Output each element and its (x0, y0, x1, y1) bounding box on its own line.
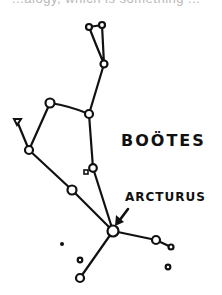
star-icon (25, 146, 33, 154)
star-icon (85, 110, 93, 118)
arcturus-star-icon (108, 226, 119, 237)
star-icon (76, 274, 84, 282)
constellation-lines (17, 25, 171, 278)
arcturus-label: ARCTURUS (125, 190, 206, 204)
star-icon (101, 61, 108, 68)
stars (25, 22, 174, 282)
constellation-title: BOÖTES (121, 131, 206, 150)
star-icon (60, 242, 64, 246)
star-icon (166, 265, 171, 270)
star-icon (89, 164, 97, 172)
star-icon (14, 119, 21, 125)
star-icon (99, 22, 105, 28)
star-icon (78, 258, 83, 263)
star-icon (169, 245, 174, 250)
arrow-icon (115, 209, 128, 226)
star-icon (46, 99, 55, 108)
star-icon (84, 170, 88, 174)
star-icon (68, 186, 77, 195)
star-icon (86, 24, 92, 30)
star-icon (152, 236, 160, 244)
